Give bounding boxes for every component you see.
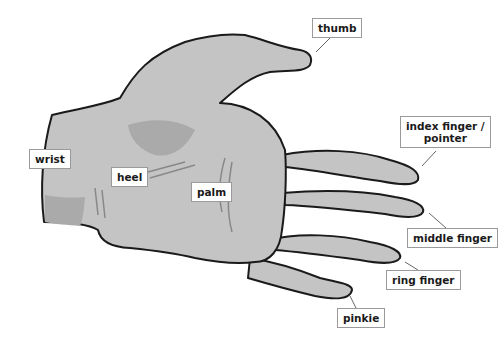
label-palm: palm [191, 182, 232, 202]
label-thumb: thumb [312, 18, 362, 38]
label-heel: heel [111, 167, 148, 187]
label-pinkie: pinkie [337, 308, 385, 328]
hand-illustration [0, 0, 504, 343]
label-index-line1: index finger / [406, 120, 485, 132]
label-middle-finger: middle finger [407, 228, 498, 248]
label-ring-finger: ring finger [386, 270, 461, 290]
label-index-line2: pointer [406, 132, 485, 144]
label-wrist: wrist [29, 149, 71, 169]
label-index-finger: index finger / pointer [400, 116, 491, 148]
hand-shape [42, 34, 423, 298]
